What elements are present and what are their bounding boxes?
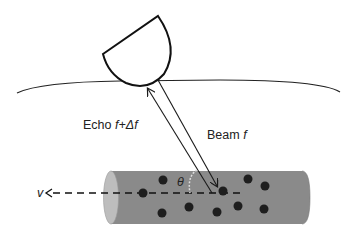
skin-surface — [17, 80, 340, 93]
angle-label: θ — [177, 175, 184, 189]
velocity-label: v — [37, 186, 44, 200]
blood-vessel — [104, 171, 311, 224]
velocity-arrowhead-icon — [46, 189, 52, 197]
transducer-probe — [103, 16, 171, 86]
echo-label: Echo f+Δf — [83, 118, 139, 132]
beam-label: Beam f — [207, 128, 248, 142]
doppler-diagram: Echo f+Δf Beam f θ v — [0, 0, 355, 234]
